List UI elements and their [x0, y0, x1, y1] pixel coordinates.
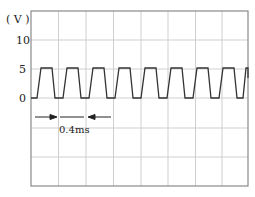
period-dimension-arrows	[35, 115, 111, 120]
y-tick-0: 0	[19, 93, 26, 104]
y-tick-5: 5	[19, 64, 26, 75]
oscilloscope-chart	[0, 0, 255, 197]
y-axis-unit-label: ( V )	[6, 14, 30, 25]
square-wave-trace	[31, 68, 248, 98]
y-tick-10: 10	[16, 35, 30, 46]
period-annotation-label: 0.4ms	[59, 125, 90, 135]
